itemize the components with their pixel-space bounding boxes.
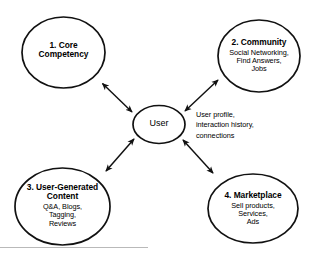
node-subtitle-line3-user-generated-content: Reviews (12, 220, 113, 228)
node-label-marketplace: 4. Marketplace Sell products, Services, … (207, 191, 299, 226)
side-note-line3: connections (196, 131, 308, 141)
node-title-line2-user-generated-content: Content (12, 192, 113, 201)
node-label-core-competency: 1. Core Competency (18, 41, 109, 60)
connector-center-to-user-generated-content (106, 139, 134, 171)
connector-center-to-core-competency (103, 84, 133, 113)
side-note-line1: User profile, (196, 110, 308, 120)
node-subtitle-line3-marketplace: Ads (207, 218, 299, 226)
side-note-line2: interaction history, (196, 120, 308, 130)
center-node-label: User (133, 118, 185, 128)
node-label-user-generated-content: 3. User-Generated Content Q&A, Blogs, Ta… (12, 183, 113, 228)
node-subtitle-line3-community: Jobs (213, 65, 305, 73)
side-note-user-attributes: User profile, interaction history, conne… (196, 110, 308, 141)
node-title-community: 2. Community (213, 38, 305, 47)
node-label-community: 2. Community Social Networking, Find Ans… (213, 38, 305, 73)
diagram-canvas: 1. Core Competency 2. Community Social N… (0, 0, 313, 257)
node-title-line2-core-competency: Competency (18, 50, 109, 59)
connector-center-to-marketplace (183, 140, 213, 173)
connector-center-to-community (185, 80, 218, 111)
node-title-marketplace: 4. Marketplace (207, 191, 299, 200)
